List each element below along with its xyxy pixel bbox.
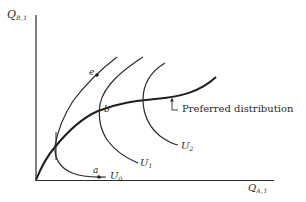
point-e-label: e — [89, 68, 94, 77]
u2-label: U2 — [181, 141, 194, 152]
point-e — [95, 73, 99, 77]
preferred-distribution-label: Preferred distribution — [182, 104, 293, 114]
u2-curve — [143, 63, 178, 145]
diagram-canvas — [0, 0, 306, 202]
point-a — [97, 175, 101, 179]
point-b-label: b — [104, 105, 110, 114]
point-a-label: a — [93, 166, 98, 175]
u1-label: U1 — [140, 158, 153, 169]
x-axis-label: QA,1 — [248, 183, 268, 194]
y-axis-label: QB,1 — [7, 9, 28, 21]
diagram: QB,1 QA,1 e b a U0 U1 U2 Preferred distr… — [0, 0, 306, 202]
u0-curve-upper — [73, 57, 117, 101]
preferred-distribution-curve — [36, 77, 216, 180]
u0-label: U0 — [110, 171, 123, 182]
